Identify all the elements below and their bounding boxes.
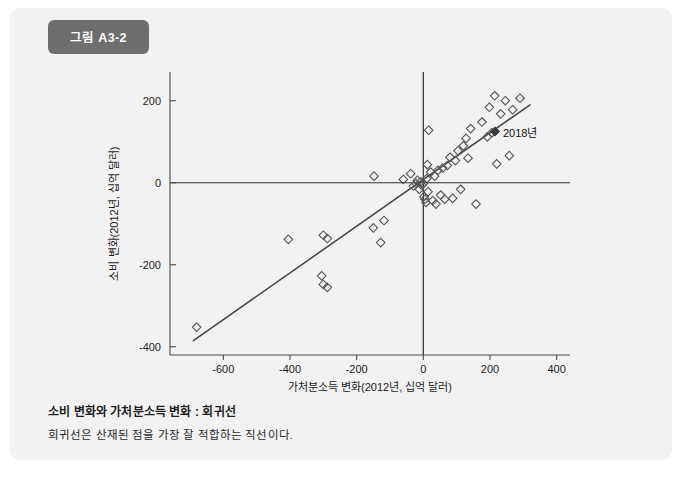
regression-line-path <box>193 105 530 341</box>
scatter-point <box>516 94 525 103</box>
scatter-point <box>369 224 378 233</box>
caption-title: 소비 변화와 가처분소득 변화 : 회귀선 <box>48 402 628 419</box>
scatter-point <box>501 96 510 105</box>
scatter-point <box>485 103 494 112</box>
scatter-point <box>440 195 449 204</box>
scatter-point <box>370 172 379 181</box>
x-tick-label: -400 <box>279 363 301 375</box>
scatter-point <box>466 124 475 133</box>
x-tick-label: 200 <box>481 363 499 375</box>
x-tick-label: 400 <box>547 363 565 375</box>
scatter-points-layer <box>192 91 524 331</box>
regression-line <box>193 105 530 341</box>
scatter-point <box>424 126 433 135</box>
y-tick-label: 200 <box>143 95 161 107</box>
scatter-point <box>508 105 517 114</box>
scatter-point <box>490 91 499 100</box>
y-axis-title: 소비 변화(2012년, 십억 달러) <box>108 146 120 280</box>
x-tick-label: -600 <box>212 363 234 375</box>
scatter-point <box>505 151 514 160</box>
x-tick-label: -200 <box>346 363 368 375</box>
axis-labels-layer: -600-400-20002004002000-200-400가처분소득 변화(… <box>108 95 566 393</box>
caption-subtitle: 회귀선은 산재된 점을 가장 잘 적합하는 직선이다. <box>48 426 628 442</box>
y-tick-label: -200 <box>139 259 161 271</box>
x-axis-title: 가처분소득 변화(2012년, 십억 달러) <box>288 381 452 393</box>
scatter-point <box>317 272 326 281</box>
scatter-point <box>448 194 457 203</box>
scatter-point <box>284 235 293 244</box>
scatter-point <box>478 118 487 127</box>
y-tick-label: -400 <box>139 341 161 353</box>
y-tick-label: 0 <box>155 177 161 189</box>
x-tick-label: 0 <box>420 363 426 375</box>
scatter-point <box>456 185 465 194</box>
scatter-point <box>376 238 385 247</box>
scatter-point <box>436 191 445 200</box>
scatter-point <box>496 110 505 119</box>
scatter-point <box>464 154 473 163</box>
caption-block: 소비 변화와 가처분소득 변화 : 회귀선 회귀선은 산재된 점을 가장 잘 적… <box>48 402 628 442</box>
point-annotation-label: 2018년 <box>503 127 537 139</box>
scatter-point <box>472 200 481 209</box>
scatter-point <box>492 160 501 169</box>
scatter-point <box>192 323 201 332</box>
scatter-point <box>380 216 389 225</box>
scatter-point <box>406 169 415 178</box>
